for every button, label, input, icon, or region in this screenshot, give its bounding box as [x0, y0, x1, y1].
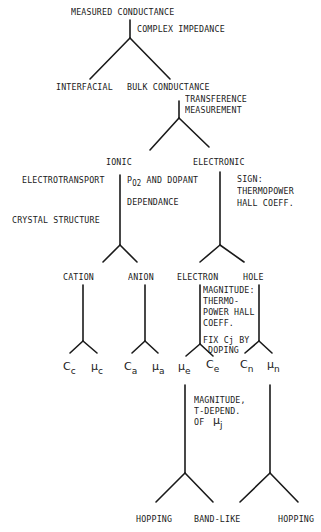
leaf-hopping-electron: HOPPING [136, 514, 172, 525]
symbol-c-electron: Ce [206, 359, 219, 375]
note-thermo: THERMO- [203, 296, 239, 307]
edge-label-thermopower: THERMOPOWER [237, 186, 294, 197]
symbol-sub: n [248, 364, 254, 374]
symbol-base: C [124, 360, 132, 373]
symbol-sub: e [185, 366, 191, 376]
symbol-sub: c [71, 366, 76, 376]
symbol-mu-hole: μn [267, 359, 280, 375]
leaf-hopping-hole: HOPPING [278, 514, 314, 525]
conductance-analysis-tree: MEASURED CONDUCTANCE COMPLEX IMPEDANCE I… [0, 0, 321, 532]
note-coeff: COEFF. [203, 318, 234, 329]
symbol-c-cation: Cc [63, 361, 76, 377]
symbol-c-anion: Ca [124, 361, 137, 377]
symbol-base: μ [178, 360, 185, 373]
symbol-base: μ [91, 360, 98, 373]
symbol-base: μ [152, 360, 159, 373]
symbol-sub: e [214, 364, 220, 374]
edge-label-po2-dopant: PO2 AND DOPANT [127, 175, 198, 189]
note-magnitude: MAGNITUDE: [203, 285, 255, 296]
edge-label-sign: SIGN: [237, 174, 263, 185]
tree-branches [0, 0, 321, 532]
symbol-mu-j: μj [213, 415, 223, 431]
edge-label-hall-coeff: HALL COEFF. [237, 198, 294, 209]
leaf-band-like: BAND-LIKE [194, 514, 241, 525]
symbol-c-hole: Cn [240, 359, 253, 375]
node-ionic: IONIC [106, 157, 132, 168]
po2-subscript: O2 [132, 179, 141, 188]
node-bulk-conductance: BULK CONDUCTANCE [127, 82, 210, 93]
symbol-base: C [206, 358, 214, 371]
symbol-base: μ [267, 358, 274, 371]
node-electronic: ELECTRONIC [193, 157, 245, 168]
note-magnitude-comma: MAGNITUDE, [194, 395, 246, 406]
note-power-hall: POWER HALL [203, 307, 255, 318]
po2-suffix: AND DOPANT [141, 175, 198, 185]
edge-label-dependance: DEPENDANCE [127, 197, 179, 208]
node-interfacial: INTERFACIAL [56, 82, 113, 93]
symbol-sub: c [98, 366, 103, 376]
edge-label-complex-impedance: COMPLEX IMPEDANCE [137, 24, 225, 35]
node-anion: ANION [128, 272, 154, 283]
symbol-mu-anion: μa [152, 361, 165, 377]
symbol-sub: j [220, 420, 223, 430]
symbol-mu-electron: μe [178, 361, 191, 377]
symbol-sub: a [159, 366, 165, 376]
symbol-base: C [240, 358, 248, 371]
symbol-base: μ [213, 414, 220, 427]
root-label-measured-conductance: MEASURED CONDUCTANCE [71, 7, 174, 18]
edge-label-electrotransport: ELECTROTRANSPORT [22, 175, 105, 186]
edge-label-transference: TRANSFERENCE [185, 94, 247, 105]
symbol-sub: n [274, 364, 280, 374]
symbol-sub: a [132, 366, 138, 376]
note-of: OF [194, 417, 204, 428]
symbol-mu-cation: μc [91, 361, 103, 377]
edge-label-crystal-structure: CRYSTAL STRUCTURE [12, 215, 100, 226]
edge-label-measurement: MEASUREMENT [185, 105, 242, 116]
note-doping: DOPING [208, 345, 239, 356]
node-hole: HOLE [243, 272, 264, 283]
node-electron: ELECTRON [177, 272, 218, 283]
node-cation: CATION [63, 272, 94, 283]
symbol-base: C [63, 360, 71, 373]
